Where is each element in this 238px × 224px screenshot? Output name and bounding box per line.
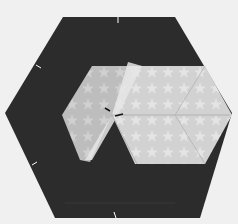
quilt-hexagon-photo xyxy=(0,0,238,224)
